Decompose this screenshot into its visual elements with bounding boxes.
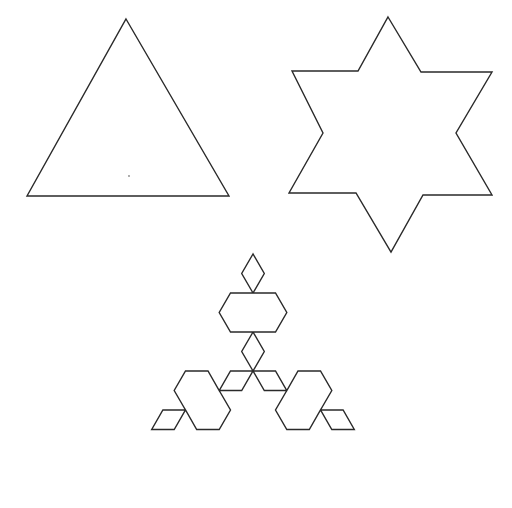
- star-iteration-1: [289, 17, 492, 252]
- stray-dot: [128, 175, 130, 177]
- triangle-iteration-0: [27, 19, 229, 196]
- koch-snowflake-figure: [0, 0, 512, 508]
- snowflake-iteration-2: [152, 254, 355, 430]
